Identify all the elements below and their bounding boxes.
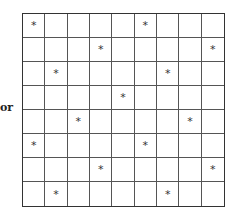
asterisk-mark: * bbox=[31, 140, 37, 151]
grid-cell: * bbox=[135, 134, 157, 158]
grid-cell bbox=[68, 86, 90, 110]
grid-cell bbox=[112, 110, 134, 134]
grid-cell bbox=[157, 86, 179, 110]
grid-cell: * bbox=[90, 38, 112, 62]
grid-cell: * bbox=[157, 182, 179, 206]
grid-cell: * bbox=[157, 62, 179, 86]
grid-cell bbox=[157, 38, 179, 62]
grid-cell bbox=[179, 86, 201, 110]
asterisk-mark: * bbox=[98, 44, 104, 55]
asterisk-mark: * bbox=[143, 140, 149, 151]
asterisk-mark: * bbox=[76, 116, 82, 127]
asterisk-mark: * bbox=[143, 20, 149, 31]
grid-cell: * bbox=[23, 134, 45, 158]
asterisk-mark: * bbox=[210, 44, 216, 55]
grid-cell bbox=[45, 38, 67, 62]
grid-cell bbox=[90, 14, 112, 38]
grid-cell bbox=[179, 134, 201, 158]
grid-cell bbox=[135, 38, 157, 62]
grid-cell bbox=[157, 110, 179, 134]
asterisk-mark: * bbox=[187, 116, 193, 127]
grid-cell: * bbox=[45, 62, 67, 86]
grid-cell bbox=[90, 110, 112, 134]
grid-cell bbox=[157, 134, 179, 158]
grid-cell: * bbox=[179, 110, 201, 134]
grid-cell bbox=[90, 182, 112, 206]
grid-cell bbox=[202, 86, 224, 110]
grid-cell bbox=[112, 158, 134, 182]
grid-cell bbox=[23, 86, 45, 110]
grid-cell: * bbox=[202, 38, 224, 62]
asterisk-mark: * bbox=[165, 189, 171, 200]
grid-cell: * bbox=[135, 14, 157, 38]
grid-cell bbox=[179, 182, 201, 206]
grid-cell: * bbox=[90, 158, 112, 182]
grid-cell bbox=[68, 158, 90, 182]
grid-cell bbox=[45, 134, 67, 158]
grid-cell bbox=[202, 134, 224, 158]
grid-cell bbox=[202, 62, 224, 86]
grid-cell bbox=[135, 158, 157, 182]
or-label: or bbox=[0, 101, 13, 115]
grid-cell bbox=[179, 158, 201, 182]
grid-cell bbox=[23, 182, 45, 206]
grid-cell: * bbox=[45, 182, 67, 206]
asterisk-mark: * bbox=[98, 164, 104, 175]
grid-cell bbox=[112, 62, 134, 86]
grid-cell bbox=[179, 38, 201, 62]
grid-cell bbox=[68, 134, 90, 158]
grid-cell: * bbox=[202, 158, 224, 182]
grid-cell: * bbox=[68, 110, 90, 134]
asterisk-mark: * bbox=[165, 68, 171, 79]
grid-cell: * bbox=[23, 14, 45, 38]
grid-cell bbox=[135, 62, 157, 86]
grid-cell bbox=[179, 14, 201, 38]
asterisk-mark: * bbox=[53, 68, 59, 79]
grid-cell bbox=[68, 38, 90, 62]
grid-cell bbox=[112, 134, 134, 158]
grid-cell bbox=[68, 14, 90, 38]
grid-cell bbox=[90, 62, 112, 86]
grid-cell bbox=[179, 62, 201, 86]
grid-cell bbox=[23, 62, 45, 86]
grid-cell bbox=[68, 182, 90, 206]
grid-cell bbox=[45, 86, 67, 110]
grid-cell bbox=[135, 182, 157, 206]
grid-cell bbox=[90, 134, 112, 158]
asterisk-mark: * bbox=[120, 92, 126, 103]
grid-cell bbox=[90, 86, 112, 110]
grid-cell bbox=[23, 38, 45, 62]
grid-cell bbox=[45, 158, 67, 182]
grid-cell bbox=[157, 14, 179, 38]
grid-cell bbox=[112, 14, 134, 38]
grid-cell: * bbox=[112, 86, 134, 110]
grid-cell bbox=[157, 158, 179, 182]
grid-cell bbox=[112, 182, 134, 206]
asterisk-mark: * bbox=[210, 164, 216, 175]
grid-cell bbox=[112, 38, 134, 62]
grid-cell bbox=[23, 110, 45, 134]
grid-cell bbox=[23, 158, 45, 182]
grid-cell bbox=[45, 14, 67, 38]
star-grid: *************** bbox=[22, 13, 225, 207]
grid-cell bbox=[202, 110, 224, 134]
grid-cell bbox=[135, 110, 157, 134]
asterisk-mark: * bbox=[53, 189, 59, 200]
grid-cell bbox=[135, 86, 157, 110]
grid-cell bbox=[202, 182, 224, 206]
grid-cell bbox=[45, 110, 67, 134]
asterisk-mark: * bbox=[31, 20, 37, 31]
grid-cell bbox=[68, 62, 90, 86]
grid-cell bbox=[202, 14, 224, 38]
